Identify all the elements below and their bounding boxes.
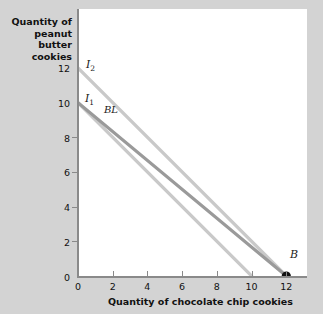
y-tick-label-2: 2 — [44, 237, 70, 248]
x-tick-label-4: 4 — [134, 281, 160, 292]
y-axis-label-line3: cookies — [32, 51, 72, 62]
x-tick-mark-6 — [182, 271, 183, 276]
x-tick-label-10: 10 — [239, 281, 265, 292]
chart-lines-svg — [78, 9, 307, 277]
plot-area — [78, 9, 307, 277]
top-caption-strip — [78, 0, 307, 9]
x-tick-mark-8 — [217, 271, 218, 276]
budget-line-label: BL — [104, 104, 118, 115]
x-tick-mark-10 — [252, 271, 253, 276]
y-tick-mark-4 — [72, 207, 77, 208]
indifference-curve-i1-line — [78, 103, 286, 276]
x-axis-line — [77, 276, 307, 278]
x-tick-label-6: 6 — [169, 281, 195, 292]
i2-subscript: 2 — [90, 64, 95, 73]
economics-indifference-curve-chart: Quantity of peanut butter cookies 12 10 … — [0, 0, 323, 314]
y-tick-label-12: 12 — [44, 63, 70, 74]
x-axis-label: Quantity of chocolate chip cookies — [78, 296, 323, 307]
y-tick-label-4: 4 — [44, 202, 70, 213]
indifference-curve-i2-line — [78, 68, 286, 276]
y-axis-label-line1: Quantity of — [11, 16, 72, 27]
x-tick-mark-4 — [147, 271, 148, 276]
x-tick-label-0: 0 — [65, 281, 91, 292]
x-tick-label-8: 8 — [204, 281, 230, 292]
y-tick-mark-2 — [72, 241, 77, 242]
indifference-curve-i1-label: I1 — [85, 92, 94, 107]
y-tick-label-6: 6 — [44, 167, 70, 178]
x-tick-mark-2 — [113, 271, 114, 276]
y-tick-label-8: 8 — [44, 133, 70, 144]
y-axis-line — [77, 9, 79, 278]
y-tick-label-10: 10 — [44, 98, 70, 109]
x-tick-mark-12 — [286, 271, 287, 276]
x-tick-label-12: 12 — [273, 281, 299, 292]
i1-subscript: 1 — [89, 98, 94, 107]
y-axis-label-line2: peanut butter — [34, 28, 72, 51]
y-tick-mark-8 — [72, 137, 77, 138]
y-tick-mark-6 — [72, 172, 77, 173]
indifference-curve-i2-label: I2 — [86, 58, 95, 73]
budget-line — [78, 103, 252, 276]
x-tick-label-2: 2 — [100, 281, 126, 292]
y-axis-label: Quantity of peanut butter cookies — [2, 16, 72, 62]
point-b-label: B — [290, 248, 298, 261]
